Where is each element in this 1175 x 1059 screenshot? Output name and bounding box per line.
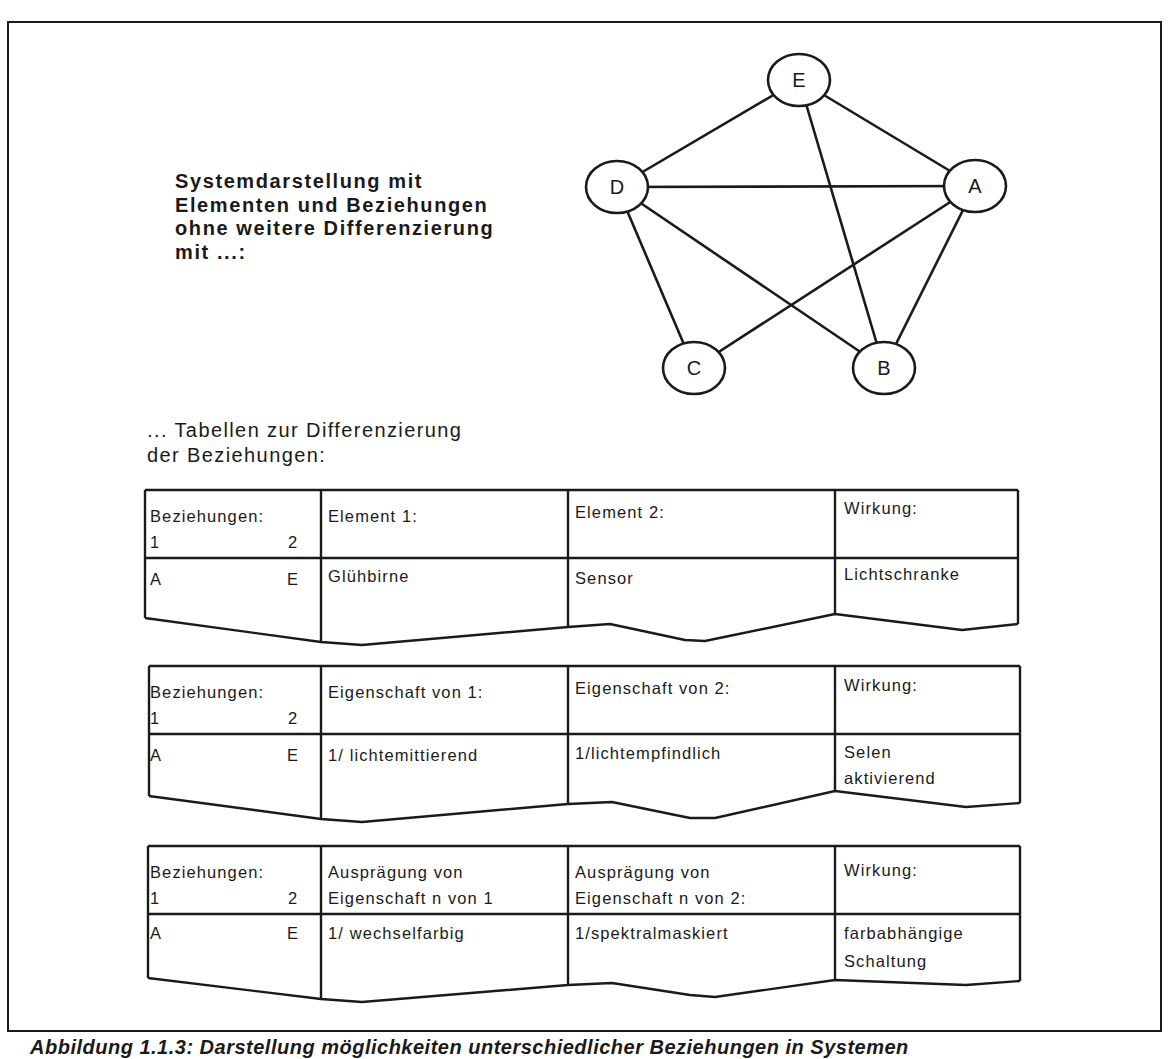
row-to: E	[287, 743, 299, 767]
figure-caption: Abbildung 1.1.3: Darstellung möglichkeit…	[30, 1036, 909, 1059]
header-relation-col-2: 2	[288, 886, 298, 910]
header-col-4: Wirkung:	[844, 858, 918, 882]
row-col-4-line-2: aktivierend	[844, 766, 936, 790]
row-col-3: 1/lichtempfindlich	[575, 741, 721, 765]
header-col-2-line-2: Eigenschaft n von 1	[328, 886, 494, 910]
row-col-4-line-2: Schaltung	[844, 949, 927, 973]
header-relation-col-1: 1	[150, 530, 160, 554]
header-col-2: Element 1:	[328, 504, 418, 528]
header-col-4: Wirkung:	[844, 496, 918, 520]
row-col-2: Glühbirne	[328, 564, 409, 588]
row-from: A	[150, 921, 162, 945]
header-relation-col-2: 2	[288, 706, 298, 730]
header-col-3: Eigenschaft von 2:	[575, 676, 731, 700]
header-col-3: Element 2:	[575, 500, 665, 524]
row-from: A	[150, 743, 162, 767]
header-col-4: Wirkung:	[844, 673, 918, 697]
header-col-2: Ausprägung von	[328, 860, 464, 884]
header-relation-col-2: 2	[288, 530, 298, 554]
row-col-3: Sensor	[575, 566, 634, 590]
row-to: E	[287, 921, 299, 945]
row-col-4: Lichtschranke	[844, 562, 960, 586]
header-relations: Beziehungen:	[150, 860, 264, 884]
row-col-2: 1/ lichtemittierend	[328, 743, 478, 767]
header-col-2: Eigenschaft von 1:	[328, 680, 484, 704]
header-relation-col-1: 1	[150, 706, 160, 730]
row-to: E	[287, 567, 299, 591]
row-col-4: farbabhängige	[844, 921, 964, 945]
header-relation-col-1: 1	[150, 886, 160, 910]
header-col-3-line-2: Eigenschaft n von 2:	[575, 886, 747, 910]
header-relations: Beziehungen:	[150, 504, 264, 528]
header-col-3: Ausprägung von	[575, 860, 711, 884]
row-from: A	[150, 567, 162, 591]
header-relations: Beziehungen:	[150, 680, 264, 704]
row-col-3: 1/spektralmaskiert	[575, 921, 729, 945]
row-col-4: Selen	[844, 740, 892, 764]
row-col-2: 1/ wechselfarbig	[328, 921, 465, 945]
